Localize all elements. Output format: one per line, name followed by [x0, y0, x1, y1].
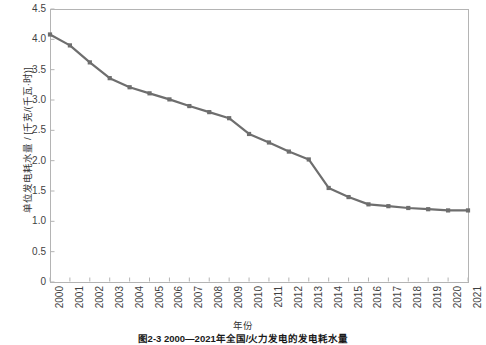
x-axis-title: 年份: [0, 318, 486, 332]
figure-caption: 图2-3 2000—2021年全国/火力发电的发电耗水量: [0, 331, 486, 345]
